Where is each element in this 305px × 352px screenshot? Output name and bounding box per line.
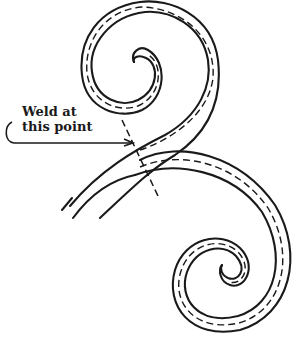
upper-scroll-centerline xyxy=(87,7,213,150)
weld-cut-line xyxy=(122,120,158,196)
strip-tail-lower xyxy=(73,175,135,218)
annotation-line-1: Weld at xyxy=(22,104,77,119)
annotation-line-2: this point xyxy=(22,119,92,134)
scroll-diagram xyxy=(0,0,305,352)
upper-scroll-outer-edge xyxy=(70,12,209,206)
